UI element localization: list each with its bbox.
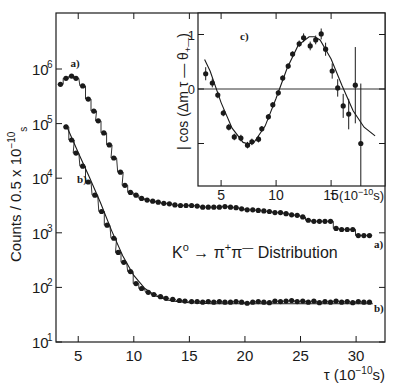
- data-point: [128, 190, 133, 195]
- data-point: [170, 297, 175, 302]
- inset-data-point: [276, 90, 281, 95]
- data-point: [133, 193, 138, 198]
- data-point: [261, 208, 266, 213]
- data-point: [278, 210, 283, 215]
- data-point: [107, 142, 112, 147]
- data-point: [367, 300, 372, 305]
- inset-data-point: [330, 68, 335, 73]
- data-point: [328, 219, 333, 224]
- inset-y-axis-label: | cos (Δm τ — θ+—): [175, 33, 193, 150]
- data-point: [333, 226, 338, 231]
- inset-data-point: [270, 102, 275, 107]
- inset-panel-label: c): [240, 30, 249, 43]
- data-point: [99, 209, 104, 214]
- inset-data-point: [308, 43, 313, 48]
- y-tick-exponent: 6: [47, 59, 53, 70]
- inset-data-point: [297, 41, 302, 46]
- data-point: [367, 233, 372, 238]
- data-point: [80, 83, 85, 88]
- data-point: [283, 298, 288, 303]
- data-point: [80, 164, 85, 169]
- data-point: [256, 299, 261, 304]
- inset-plot: 5101510τ (10−10s)| cos (Δm τ — θ+—)c): [175, 13, 385, 203]
- data-point: [283, 211, 288, 216]
- data-point: [111, 236, 116, 241]
- y-tick-exponent: 3: [47, 223, 53, 234]
- inset-data-point: [319, 31, 324, 36]
- data-point: [250, 207, 255, 212]
- x-tick-label: 10: [125, 347, 142, 364]
- data-point: [128, 269, 133, 274]
- data-point: [189, 299, 194, 304]
- data-point: [91, 108, 96, 113]
- data-point: [92, 193, 97, 198]
- data-point: [163, 296, 168, 301]
- data-point: [245, 207, 250, 212]
- inset-x-tick-label: 5: [217, 187, 225, 203]
- data-point: [328, 300, 333, 305]
- data-point: [306, 300, 311, 305]
- data-point: [118, 170, 123, 175]
- inset-data-point: [346, 111, 351, 116]
- inset-data-point: [210, 80, 215, 85]
- data-point: [156, 200, 161, 205]
- data-point: [228, 205, 233, 210]
- inset-x-tick-label: 10: [268, 187, 284, 203]
- inset-data-point: [256, 137, 261, 142]
- data-point: [311, 219, 316, 224]
- data-point: [182, 298, 187, 303]
- inset-data-point: [286, 64, 291, 69]
- x-tick-label: 15: [181, 347, 198, 364]
- data-point: [295, 299, 300, 304]
- data-point: [145, 197, 150, 202]
- data-point: [245, 301, 250, 306]
- inset-data-point: [259, 126, 264, 131]
- series-label: a): [70, 57, 80, 70]
- series-label-end: a): [374, 238, 384, 251]
- distribution-annotation: Ko → π+π— Distribution: [172, 241, 338, 261]
- data-point: [96, 118, 101, 123]
- x-tick-label: 25: [292, 347, 309, 364]
- data-point: [239, 300, 244, 305]
- data-point: [73, 76, 78, 81]
- data-point: [217, 299, 222, 304]
- data-point: [256, 208, 261, 213]
- data-point: [350, 300, 355, 305]
- data-point: [300, 214, 305, 219]
- data-point: [289, 298, 294, 303]
- data-point: [345, 299, 350, 304]
- inset-data-point: [221, 110, 226, 115]
- data-point: [200, 205, 205, 210]
- inset-data-point: [341, 103, 346, 108]
- inset-data-point: [353, 83, 358, 88]
- data-point: [289, 212, 294, 217]
- chart-svg: 51015202530106105104103102101τ (10−10s)C…: [0, 0, 401, 389]
- y-tick-exponent: 1: [47, 332, 53, 343]
- data-point: [300, 298, 305, 303]
- data-point: [333, 298, 338, 303]
- inset-data-point: [313, 37, 318, 42]
- data-point: [63, 76, 68, 81]
- data-point: [306, 218, 311, 223]
- data-point: [261, 300, 266, 305]
- data-point: [361, 300, 366, 305]
- data-point: [311, 298, 316, 303]
- data-point: [105, 223, 110, 228]
- y-tick-exponent: 4: [47, 168, 53, 179]
- inset-data-point: [215, 92, 220, 97]
- data-point: [350, 227, 355, 232]
- inset-data-point: [249, 139, 254, 144]
- data-point: [167, 201, 172, 206]
- data-point: [356, 299, 361, 304]
- data-point: [317, 300, 322, 305]
- data-point: [150, 199, 155, 204]
- data-point: [267, 300, 272, 305]
- data-point: [317, 219, 322, 224]
- data-point: [267, 209, 272, 214]
- data-point: [195, 299, 200, 304]
- data-point: [177, 298, 182, 303]
- data-point: [356, 233, 361, 238]
- data-point: [111, 155, 116, 160]
- data-point: [63, 124, 68, 129]
- data-point: [211, 205, 216, 210]
